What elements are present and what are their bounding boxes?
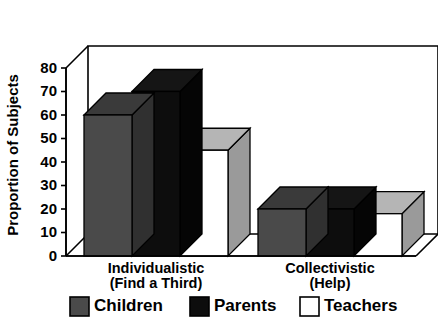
legend-item-parents[interactable]: Parents [190,296,276,316]
y-axis-label: Proportion of Subjects [4,74,21,236]
y-tick-label: 20 [40,200,57,217]
legend-item-children[interactable]: Children [70,296,163,316]
legend-label: Children [94,296,163,315]
chart-container: Proportion of Subjects 01020304050607080… [0,0,438,325]
y-tick-label: 50 [40,129,57,146]
category-label: Individualistic [108,260,205,276]
legend-swatch-parents [190,297,209,316]
y-tick-label: 70 [40,82,57,99]
y-tick-label: 80 [40,59,57,76]
y-axis-ticks: 01020304050607080 [40,59,66,264]
y-tick-label: 0 [49,247,57,264]
bars-layer [84,70,424,257]
bar-side-face [180,70,202,257]
y-tick-label: 30 [40,176,57,193]
bar-children-group1 [84,93,154,256]
y-tick-label: 60 [40,106,57,123]
category-label: Collectivistic [285,260,374,276]
cropped-top-caption [0,0,438,8]
category-label: (Find a Third) [110,275,203,291]
bar-chart: Proportion of Subjects 01020304050607080… [0,0,438,325]
legend-swatch-children [70,297,89,316]
bar-front-face [84,115,132,256]
top-left-edge [66,46,88,68]
category-label: (Help) [309,275,350,291]
y-tick-label: 10 [40,223,57,240]
category-labels: Individualistic(Find a Third)Collectivis… [108,260,375,291]
bar-front-face [258,209,306,256]
legend-label: Parents [214,296,276,315]
legend-item-teachers[interactable]: Teachers [300,296,397,316]
chart-legend: ChildrenParentsTeachers [70,296,397,316]
legend-label: Teachers [324,296,397,315]
bar-side-face [132,93,154,256]
y-tick-label: 40 [40,153,57,170]
legend-swatch-teachers [300,297,319,316]
